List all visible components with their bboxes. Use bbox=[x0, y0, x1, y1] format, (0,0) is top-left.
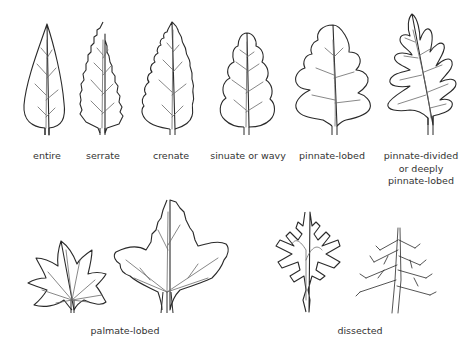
leaf-dissected-fine bbox=[356, 228, 436, 313]
leaf-serrate bbox=[80, 22, 123, 135]
label-pinnate-divided: pinnate-divided or deeply pinnate-lobed bbox=[372, 150, 470, 188]
leaf-palmate-lobed-large bbox=[114, 200, 228, 313]
label-entire: entire bbox=[17, 150, 77, 163]
leaf-crenate bbox=[142, 22, 194, 135]
leaf-sinuate bbox=[220, 33, 274, 135]
leaf-pinnate-lobed bbox=[296, 25, 371, 135]
leaf-dissected-multi-lobe bbox=[276, 212, 340, 312]
leaf-pinnate-divided bbox=[388, 14, 456, 135]
label-crenate: crenate bbox=[136, 150, 206, 163]
leaf-entire bbox=[24, 24, 65, 135]
label-pinnate-divided-line-1: pinnate-divided bbox=[372, 150, 470, 163]
label-dissected: dissected bbox=[330, 325, 390, 338]
label-sinuate: sinuate or wavy bbox=[205, 150, 291, 163]
label-pinnate-divided-line-3: pinnate-lobed bbox=[372, 175, 470, 188]
label-pinnate-lobed: pinnate-lobed bbox=[292, 150, 372, 163]
leaf-palmate-lobed-small bbox=[28, 241, 106, 313]
label-pinnate-divided-line-2: or deeply bbox=[372, 163, 470, 176]
label-palmate-lobed: palmate-lobed bbox=[80, 325, 170, 338]
label-serrate: serrate bbox=[73, 150, 133, 163]
